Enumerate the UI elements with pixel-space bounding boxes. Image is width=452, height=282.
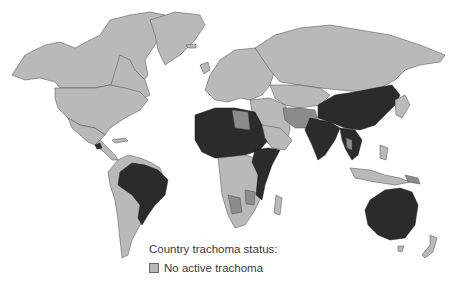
world-map [0,0,452,282]
legend-item-label: No active trachoma [164,262,263,274]
region-libya [232,110,250,130]
legend-swatch-icon [149,263,159,273]
legend-item-no-active-trachoma: No active trachoma [149,262,277,274]
region-philippines [380,145,388,160]
region-australia [365,188,418,240]
region-central-america [95,140,118,160]
legend-title: Country trachoma status: [149,243,277,255]
region-indonesia [350,168,410,185]
region-iceland-uk [186,44,210,74]
region-madagascar [274,195,282,215]
region-canada-alaska [12,12,170,88]
region-russia [255,25,445,92]
region-india [305,118,340,160]
region-new-zealand [422,235,437,258]
region-usa [55,85,148,135]
region-tasmania [398,246,404,252]
region-caribbean [112,138,128,143]
region-thailand [346,138,352,150]
map-legend: Country trachoma status: No active trach… [149,243,277,274]
region-greenland [150,12,205,65]
